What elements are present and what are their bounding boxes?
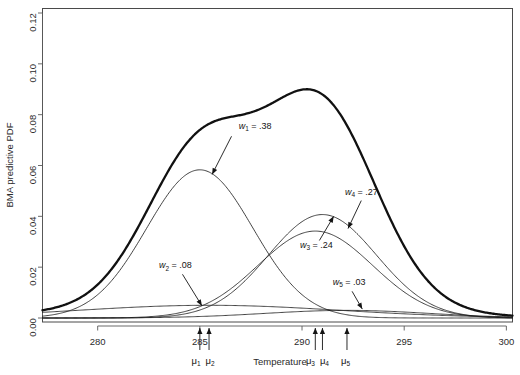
leader-line-w1 <box>212 136 231 174</box>
component-curve-w2 <box>43 305 513 317</box>
y-tick-label-1: 0.02 <box>27 267 38 286</box>
x-tick-label-1: 285 <box>192 336 208 347</box>
bma-curve <box>43 89 513 315</box>
component-curve-w5 <box>43 310 513 318</box>
weight-annotation-w4: w4 = .27 <box>345 187 378 198</box>
mu-label-2: μ2 <box>205 355 214 367</box>
mu-label-1: μ1 <box>191 355 200 367</box>
y-tick-label-4: 0.08 <box>27 115 38 134</box>
x-tick-label-4: 300 <box>498 336 514 347</box>
y-tick-label-0: 0.00 <box>27 318 38 337</box>
y-tick-label-2: 0.04 <box>27 216 38 235</box>
component-curves <box>43 170 513 318</box>
y-tick-label-3: 0.06 <box>27 166 38 185</box>
x-axis-title: Temperature <box>253 356 306 367</box>
x-tick-label-2: 290 <box>294 336 310 347</box>
weight-annotation-w1: w1 = .38 <box>239 121 272 132</box>
chart-figure: BMA predictive PDF Temperature 0.00 0.02… <box>0 0 520 375</box>
weight-annotation-w5: w5 = .03 <box>333 277 366 288</box>
y-tick-label-5: 0.10 <box>27 64 38 83</box>
plot-frame <box>43 9 513 323</box>
weight-annotation-w2: w2 = .08 <box>159 260 192 271</box>
x-tick-label-3: 295 <box>396 336 412 347</box>
x-axis <box>98 326 507 331</box>
weight-annotations: w1 = .38w2 = .08w3 = .24w4 = .27w5 = .03 <box>159 121 378 289</box>
y-axis <box>38 13 43 318</box>
bma-aggregate-curve <box>43 89 513 315</box>
mu-label-3: μ3 <box>306 355 315 367</box>
mu-label-4: μ4 <box>320 355 329 367</box>
weight-annotation-w3: w3 = .24 <box>300 240 333 251</box>
x-tick-label-0: 280 <box>90 336 106 347</box>
component-curve-w1 <box>43 170 513 318</box>
mu-label-5: μ5 <box>341 355 350 367</box>
mu-arrow-markers <box>197 328 349 350</box>
bma-predictive-pdf-chart: BMA predictive PDF Temperature 0.00 0.02… <box>0 0 520 375</box>
y-tick-label-6: 0.12 <box>27 13 38 32</box>
y-axis-title: BMA predictive PDF <box>4 122 15 207</box>
